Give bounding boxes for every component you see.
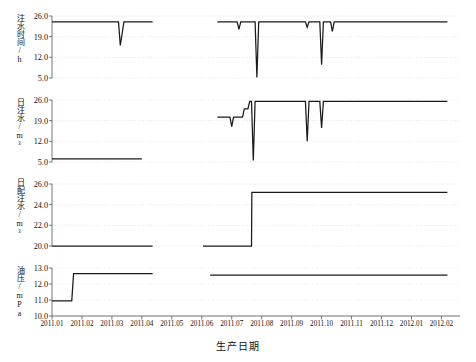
panel-1-ylabel: 注水时间/h — [15, 14, 24, 78]
panel-3-ytick-0: 20.0 — [14, 242, 48, 251]
panel-4-ylabel: 油压/mPa — [15, 266, 24, 318]
panel-2-plot — [52, 100, 460, 162]
x-axis-tick-2011.09: 2011.09 — [280, 320, 303, 328]
panel-4-plot — [52, 268, 460, 316]
panel-1-plot — [52, 16, 460, 78]
panel-2-ytick-0: 5.0 — [14, 158, 48, 167]
panel-planned-injection — [52, 184, 460, 246]
panel-1-ytick-2: 19.0 — [14, 32, 48, 41]
x-axis-tick-2012.02: 2012.02 — [430, 320, 453, 328]
x-axis-tick-2012.01: 2012.01 — [400, 320, 423, 328]
x-axis-tick-2011.03: 2011.03 — [100, 320, 123, 328]
panel-2-ytick-3: 26.0 — [14, 96, 48, 105]
x-axis-tick-2011.11: 2011.11 — [340, 320, 363, 328]
x-axis-tick-2011.01: 2011.01 — [40, 320, 63, 328]
x-axis-tick-2011.10: 2011.10 — [310, 320, 333, 328]
panel-3-ytick-1: 22.0 — [14, 221, 48, 230]
x-axis-title: 生产日期 — [216, 338, 260, 353]
panel-2-ytick-2: 19.0 — [14, 116, 48, 125]
panel-4-ytick-3: 13.0 — [14, 264, 48, 273]
x-axis-tick-2011.08: 2011.08 — [250, 320, 273, 328]
x-axis-tick-2011.07: 2011.07 — [220, 320, 243, 328]
panel-3-ytick-2: 24.0 — [14, 200, 48, 209]
panel-3-plot — [52, 184, 460, 246]
x-axis-tick-2011.05: 2011.05 — [160, 320, 183, 328]
panel-2-ylabel: 日注水/m³ — [15, 98, 24, 162]
panel-4-ytick-2: 12.0 — [14, 280, 48, 289]
figure-root: 注水时间/h 26.0 19.0 12.0 5.0 日注水/m³ 26.0 19… — [0, 0, 476, 362]
panel-3-ytick-3: 26.0 — [14, 180, 48, 189]
panel-4-ytick-1: 11.0 — [14, 296, 48, 305]
x-axis-tick-2011.02: 2011.02 — [70, 320, 93, 328]
panel-1-ytick-1: 12.0 — [14, 53, 48, 62]
panel-1-ytick-0: 5.0 — [14, 74, 48, 83]
x-axis-tick-2011.12: 2011.12 — [370, 320, 393, 328]
panel-2-ytick-1: 12.0 — [14, 137, 48, 146]
x-axis-tick-2011.04: 2011.04 — [130, 320, 153, 328]
x-axis-tick-2011.06: 2011.06 — [190, 320, 213, 328]
panel-3-ylabel: 日配注水/m³ — [15, 178, 24, 248]
panel-daily-injection — [52, 100, 460, 162]
panel-1-ytick-3: 26.0 — [14, 12, 48, 21]
panel-injection-time — [52, 16, 460, 78]
panel-oil-pressure — [52, 268, 460, 316]
